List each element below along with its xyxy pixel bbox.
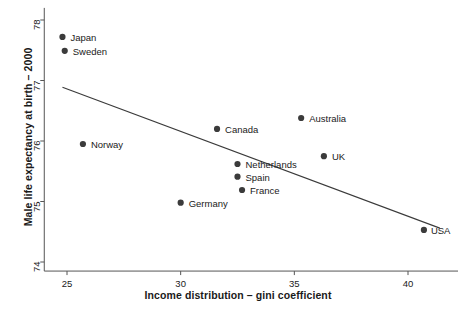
data-point-norway <box>80 141 86 147</box>
point-label-spain: Spain <box>246 172 270 183</box>
point-label-australia: Australia <box>309 113 346 124</box>
point-label-germany: Germany <box>189 198 228 209</box>
plot-area <box>0 0 476 318</box>
point-label-france: France <box>250 185 280 196</box>
data-point-usa <box>421 227 427 233</box>
data-point-france <box>239 187 245 193</box>
x-tick-label: 25 <box>52 278 82 289</box>
data-point-netherlands <box>234 161 240 167</box>
x-tick-label: 40 <box>393 278 423 289</box>
point-label-canada: Canada <box>225 124 258 135</box>
trend-line <box>62 87 439 228</box>
point-label-japan: Japan <box>70 32 96 43</box>
point-label-norway: Norway <box>91 139 123 150</box>
data-point-canada <box>214 126 220 132</box>
y-tick-label: 78 <box>31 20 42 42</box>
point-label-usa: USA <box>431 225 451 236</box>
data-point-germany <box>178 200 184 206</box>
y-tick-label: 76 <box>31 141 42 163</box>
x-tick-label: 35 <box>279 278 309 289</box>
y-tick-label: 77 <box>31 80 42 102</box>
data-point-japan <box>59 34 65 40</box>
point-label-netherlands: Netherlands <box>246 159 297 170</box>
point-label-sweden: Sweden <box>73 46 107 57</box>
scatter-chart-figure: Male life expectancy at birth – 2000 Inc… <box>0 0 476 318</box>
data-point-australia <box>298 115 304 121</box>
point-label-uk: UK <box>332 151 345 162</box>
data-point-sweden <box>62 48 68 54</box>
data-point-uk <box>321 153 327 159</box>
regression-line <box>62 87 439 228</box>
x-tick-label: 30 <box>166 278 196 289</box>
y-tick-label: 75 <box>31 201 42 223</box>
y-tick-label: 74 <box>31 262 42 284</box>
data-point-spain <box>234 174 240 180</box>
